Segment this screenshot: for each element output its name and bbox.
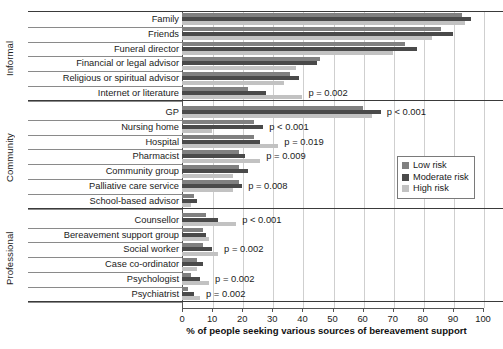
group-separator (28, 208, 503, 209)
x-tick-label: 60 (357, 313, 367, 324)
bar-low-risk (182, 213, 206, 217)
p-value-annotation: p = 0.002 (215, 273, 254, 285)
bar-moderate-risk (182, 76, 299, 80)
category-label: Religious or spiritual advisor (32, 71, 182, 86)
category-label: Friends (32, 27, 182, 42)
category-label: Family (32, 12, 182, 27)
bar-moderate-risk (182, 110, 381, 114)
x-axis-title-text: % of people seeking various sources of b… (36, 325, 466, 336)
p-value-annotation: p = 0.002 (224, 243, 263, 255)
chart-row: Nursing home (0, 120, 503, 135)
group-separator (28, 301, 503, 302)
category-label: Case co-ordinator (32, 257, 182, 272)
chart-row: Religious or spiritual advisor (0, 71, 503, 86)
x-tick-label: 20 (237, 313, 247, 324)
bar-low-risk (182, 287, 188, 291)
bar-high-risk (182, 159, 260, 163)
category-label: GP (32, 105, 182, 120)
bar-low-risk (182, 165, 239, 169)
chart-row: Financial or legal advisor (0, 56, 503, 71)
bar-high-risk (182, 252, 218, 256)
bar-moderate-risk (182, 91, 266, 95)
bar-low-risk (182, 180, 239, 184)
chart-row: Hospital (0, 135, 503, 150)
bar-moderate-risk (182, 233, 206, 237)
bar-high-risk (182, 144, 278, 148)
legend-swatch-moderate-risk (402, 174, 409, 181)
x-tick-label: 50 (327, 313, 337, 324)
x-tick-label: 80 (418, 313, 428, 324)
category-label: Psychiatrist (32, 287, 182, 302)
bar-low-risk (182, 106, 363, 110)
legend-label-high-risk: High risk (413, 183, 449, 195)
legend-item-low-risk: Low risk (402, 160, 469, 172)
x-tick (212, 308, 213, 312)
x-tick (393, 308, 394, 312)
p-value-annotation: p = 0.002 (206, 288, 245, 300)
p-value-annotation: p < 0.001 (242, 214, 281, 226)
bar-moderate-risk (182, 47, 417, 51)
bar-moderate-risk (182, 17, 471, 21)
p-value-annotation: p < 0.001 (269, 121, 308, 133)
bar-moderate-risk (182, 247, 212, 251)
bar-low-risk (182, 228, 203, 232)
category-rule (28, 302, 182, 303)
bar-high-risk (182, 237, 209, 241)
category-label: Community group (32, 164, 182, 179)
x-axis-title: % of people seeking various sources of b… (0, 325, 503, 336)
legend-swatch-high-risk (402, 185, 409, 192)
p-value-annotation: p = 0.008 (248, 180, 287, 192)
chart-row: Funeral director (0, 42, 503, 57)
bar-moderate-risk (182, 218, 218, 222)
bar-moderate-risk (182, 32, 453, 36)
category-label: Financial or legal advisor (32, 56, 182, 71)
category-rule (28, 101, 182, 102)
p-value-annotation: p = 0.009 (266, 150, 305, 162)
bar-high-risk (182, 296, 200, 300)
x-tick-label: 0 (179, 313, 184, 324)
bar-moderate-risk (182, 292, 194, 296)
bar-high-risk (182, 21, 465, 25)
p-value-annotation: p = 0.002 (308, 87, 347, 99)
x-tick (272, 308, 273, 312)
chart-root: Informal Community Professional FamilyFr… (0, 0, 503, 349)
bar-low-risk (182, 243, 203, 247)
category-label: Social worker (32, 242, 182, 257)
bar-high-risk (182, 188, 233, 192)
bar-low-risk (182, 87, 248, 91)
bar-moderate-risk (182, 154, 245, 158)
bar-high-risk (182, 222, 236, 226)
category-label: Internet or literature (32, 86, 182, 101)
category-label: Funeral director (32, 42, 182, 57)
bar-low-risk (182, 135, 254, 139)
category-label: Nursing home (32, 120, 182, 135)
category-label: Palliative care service (32, 179, 182, 194)
bar-moderate-risk (182, 140, 260, 144)
bar-high-risk (182, 51, 393, 55)
bar-low-risk (182, 72, 290, 76)
x-tick (182, 308, 183, 312)
bar-high-risk (182, 81, 284, 85)
bar-high-risk (182, 267, 197, 271)
bar-moderate-risk (182, 61, 317, 65)
chart-row: Bereavement support group (0, 228, 503, 243)
bar-high-risk (182, 66, 296, 70)
x-tick (242, 308, 243, 312)
x-tick-label: 40 (297, 313, 307, 324)
x-tick (333, 308, 334, 312)
legend-item-high-risk: High risk (402, 183, 469, 195)
x-tick-label: 30 (267, 313, 277, 324)
bar-moderate-risk (182, 262, 203, 266)
bar-moderate-risk (182, 199, 197, 203)
category-label: School-based advisor (32, 194, 182, 209)
chart-row: Internet or literature (0, 86, 503, 101)
bar-low-risk (182, 27, 441, 31)
legend-label-low-risk: Low risk (413, 160, 447, 172)
x-tick (483, 308, 484, 312)
legend-label-moderate-risk: Moderate risk (413, 172, 469, 184)
category-label: Counsellor (32, 213, 182, 228)
bar-high-risk (182, 281, 209, 285)
x-tick-label: 70 (387, 313, 397, 324)
x-tick-label: 90 (448, 313, 458, 324)
bar-moderate-risk (182, 125, 263, 129)
